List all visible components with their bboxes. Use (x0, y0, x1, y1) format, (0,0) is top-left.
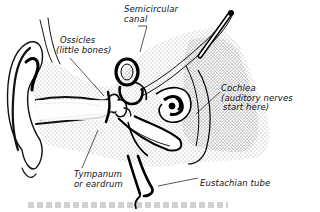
leader-eustachian (158, 178, 198, 186)
label-semicircular-canal: Semicircular canal (124, 5, 178, 24)
leader-semicircular (138, 26, 147, 52)
label-tympanum: Tympanum or eardrum (74, 170, 123, 189)
cochlea (156, 88, 191, 123)
label-line: Eustachian tube (200, 179, 270, 189)
label-line: (little bones) (56, 46, 111, 56)
label-cochlea: Cochlea (auditory nerves start here) (221, 84, 293, 113)
label-ossicles: Ossicles (little bones) (56, 36, 111, 55)
figure-caption (28, 202, 228, 208)
ear-canal (36, 97, 110, 124)
label-line: canal (124, 15, 178, 25)
label-eustachian-tube: Eustachian tube (200, 179, 270, 189)
label-line: start here) (221, 103, 293, 113)
label-line: or eardrum (74, 180, 123, 190)
